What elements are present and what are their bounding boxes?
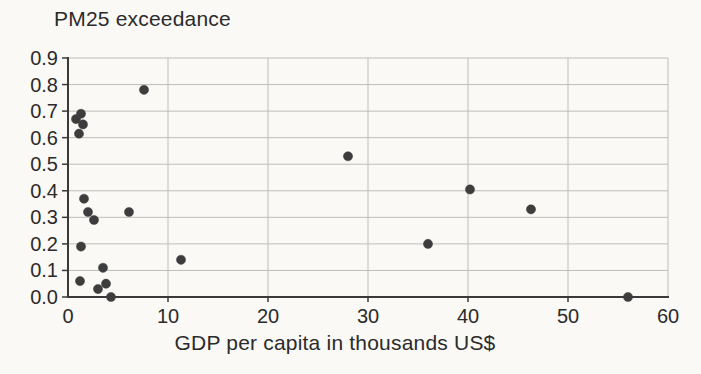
- x-tick-label: 0: [62, 305, 73, 327]
- data-point: [75, 276, 84, 285]
- y-tick-label: 0.7: [30, 100, 58, 122]
- data-point: [101, 279, 110, 288]
- y-tick-label: 0.1: [30, 259, 58, 281]
- x-tick-label: 40: [457, 305, 479, 327]
- data-point: [139, 85, 148, 94]
- data-point: [74, 129, 83, 138]
- x-tick-label: 50: [557, 305, 579, 327]
- chart-canvas: 0.00.10.20.30.40.50.60.70.80.90102030405…: [0, 0, 701, 374]
- data-point: [343, 152, 352, 161]
- data-point: [623, 292, 632, 301]
- y-tick-label: 0.3: [30, 206, 58, 228]
- y-tick-label: 0.2: [30, 233, 58, 255]
- data-point: [78, 120, 87, 129]
- data-point: [89, 215, 98, 224]
- data-point: [93, 284, 102, 293]
- x-tick-label: 30: [357, 305, 379, 327]
- data-point: [465, 185, 474, 194]
- data-point: [423, 239, 432, 248]
- data-point: [124, 207, 133, 216]
- scatter-plot-figure: PM25 exceedance 0.00.10.20.30.40.50.60.7…: [0, 0, 701, 374]
- x-tick-label: 60: [657, 305, 679, 327]
- y-tick-label: 0.6: [30, 127, 58, 149]
- y-tick-label: 0.4: [30, 180, 58, 202]
- x-axis-label: GDP per capita in thousands US$: [68, 331, 602, 355]
- y-tick-label: 0.0: [30, 286, 58, 308]
- y-tick-label: 0.8: [30, 74, 58, 96]
- data-point: [76, 109, 85, 118]
- data-point: [79, 194, 88, 203]
- data-point: [98, 263, 107, 272]
- data-point: [526, 205, 535, 214]
- y-tick-label: 0.9: [30, 47, 58, 69]
- data-point: [106, 292, 115, 301]
- data-point: [76, 242, 85, 251]
- y-tick-label: 0.5: [30, 153, 58, 175]
- data-point: [83, 207, 92, 216]
- data-point: [176, 255, 185, 264]
- x-tick-label: 10: [157, 305, 179, 327]
- x-tick-label: 20: [257, 305, 279, 327]
